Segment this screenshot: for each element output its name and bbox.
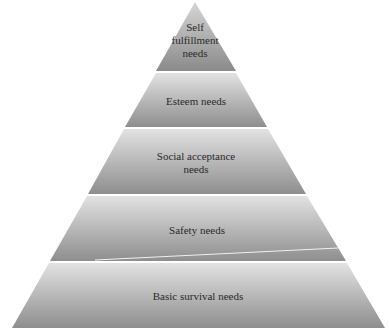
label-line: Basic survival needs [153,290,243,303]
tier-label-basic-survival: Basic survival needs [153,290,243,303]
tier-label-esteem: Esteem needs [166,95,226,108]
label-line: Safety needs [169,224,225,237]
label-line: needs [171,47,218,60]
tier-label-self-fulfillment: Self fulfillment needs [171,21,218,60]
label-line: Esteem needs [166,95,226,108]
label-line: fulfillment [171,34,218,47]
label-line: Social acceptance [157,150,235,163]
tier-label-safety: Safety needs [169,224,225,237]
label-line: Self [171,21,218,34]
tier-label-social-acceptance: Social acceptance needs [157,150,235,176]
label-line: needs [157,163,235,176]
